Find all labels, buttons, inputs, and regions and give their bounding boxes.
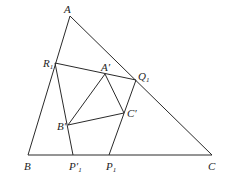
edge-A_prime-B_prime (68, 74, 105, 125)
label-R1: R1 (42, 57, 53, 71)
diagram-edges (28, 16, 212, 155)
label-A-prime: A′ (100, 61, 111, 73)
label-Q1: Q1 (138, 70, 149, 84)
label-C: C (208, 160, 216, 172)
label-B-prime: B′ (57, 120, 67, 132)
edge-R1-Q1 (55, 63, 136, 80)
geometry-diagram: A B C R1 Q1 A′ B′ C′ P′1 P1 (0, 0, 229, 181)
edge-A-B (28, 16, 70, 155)
label-P1-prime: P′1 (68, 160, 82, 174)
edge-C_prime-A_prime (105, 74, 124, 113)
label-B: B (24, 160, 31, 172)
edge-C-A (70, 16, 212, 155)
edge-R1-P1_prime (55, 63, 73, 155)
label-A: A (63, 3, 71, 15)
label-P1: P1 (105, 160, 116, 174)
diagram-labels: A B C R1 Q1 A′ B′ C′ P′1 P1 (24, 3, 216, 174)
label-C-prime: C′ (127, 107, 137, 119)
edge-B_prime-C_prime (68, 113, 124, 125)
